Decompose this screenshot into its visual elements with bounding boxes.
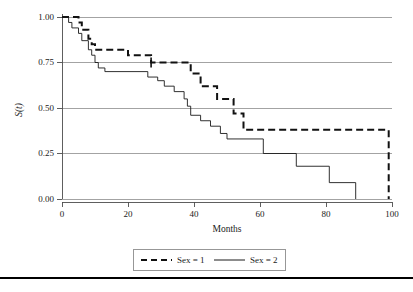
legend-label-sex-1: Sex = 1 xyxy=(177,255,205,265)
y-tick-label-0.75: 0.75 xyxy=(38,57,54,67)
y-tick-label-0.25: 0.25 xyxy=(38,148,54,158)
x-tick-label-40: 40 xyxy=(190,209,200,219)
y-tick-label-0.00: 0.00 xyxy=(38,194,54,204)
legend-label-sex-2: Sex = 2 xyxy=(250,255,278,265)
figure-container: 1.00 0.75 0.50 0.25 0.00 0 20 40 60 80 1… xyxy=(0,0,413,292)
x-axis-ticks xyxy=(62,202,392,207)
x-tick-label-0: 0 xyxy=(60,209,65,219)
x-tick-label-20: 20 xyxy=(124,209,134,219)
y-axis-ticks xyxy=(57,17,62,199)
y-axis-title: S(t) xyxy=(14,103,25,117)
y-tick-label-1.00: 1.00 xyxy=(38,12,54,22)
x-axis-title: Months xyxy=(212,224,241,234)
y-tick-label-0.50: 0.50 xyxy=(38,103,54,113)
gridlines xyxy=(62,17,392,199)
x-axis-tick-labels: 0 20 40 60 80 100 xyxy=(60,209,400,219)
x-tick-label-100: 100 xyxy=(385,209,399,219)
legend: Sex = 1 Sex = 2 xyxy=(133,249,285,270)
x-tick-label-80: 80 xyxy=(322,209,332,219)
y-axis-tick-labels: 1.00 0.75 0.50 0.25 0.00 xyxy=(38,12,54,204)
kaplan-meier-survival-chart: 1.00 0.75 0.50 0.25 0.00 0 20 40 60 80 1… xyxy=(0,0,413,292)
x-tick-label-60: 60 xyxy=(256,209,266,219)
